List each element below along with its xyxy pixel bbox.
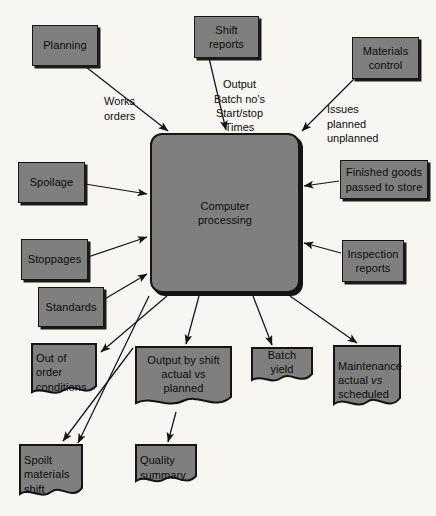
node-shift-reports-label-line2: reports [209,37,244,51]
edge-standards-to-process [103,274,147,300]
node-maintenance-label-line2: actual vs [332,373,402,387]
node-standards-label: Standards [45,300,96,314]
node-stoppages[interactable]: Stoppages [21,239,88,280]
diagram-canvas: Planning Shift reports Materials control… [0,0,436,516]
edge-label-works-orders: Works orders [104,80,135,123]
node-spoilage[interactable]: Spoilage [18,162,85,203]
node-spoilt-materials-label-line1: Spoilt [18,448,84,467]
edge-output-by-shift-to-quality-summary [168,412,176,442]
edge-inspection-reports-to-process [304,243,341,253]
edge-label-output-batch-times-text: Output Batch no's Start/stop Times [214,78,265,133]
edge-finished-goods-to-process [304,181,339,186]
node-spoilage-label: Spoilage [30,175,74,189]
edge-process-to-out-of-order [101,296,167,352]
node-spoilt-materials-label-line3: shift [18,482,84,496]
node-planning-label: Planning [43,38,87,52]
node-output-by-shift-label-line1: Output by shift [134,345,233,367]
node-spoilt-materials-shift[interactable]: Spoilt materials shift [18,443,84,501]
node-shift-reports-label-line1: Shift [215,23,238,37]
node-spoilt-materials-label-line2: materials [18,467,84,481]
edge-spoilage-to-process [85,184,147,194]
node-materials-control-label-line2: control [369,58,403,72]
edge-process-to-maintenance [290,296,357,343]
maintenance-actual-word: actual [338,374,368,386]
node-out-of-order-label-line3: conditions [30,380,98,394]
edge-process-to-output-by-shift [186,296,199,344]
node-materials-control[interactable]: Materials control [352,37,419,79]
node-shift-reports[interactable]: Shift reports [194,16,259,58]
node-inspection-reports-label-line2: reports [356,261,391,275]
node-inspection-reports[interactable]: Inspection reports [342,240,404,282]
node-batch-yield-label: Batch yield [250,348,314,384]
node-planning[interactable]: Planning [32,25,98,66]
node-out-of-order-conditions[interactable]: Out of order conditions [30,342,98,398]
node-maintenance-label-line3: scheduled [332,387,402,401]
node-standards[interactable]: Standards [38,287,104,327]
node-inspection-reports-label-line1: Inspection [347,247,398,261]
node-computer-processing-label-line2: processing [198,213,252,227]
edge-stoppages-to-process [88,237,147,257]
maintenance-vs-word: vs [371,374,382,386]
node-computer-processing[interactable]: Computer processing [150,133,300,293]
edge-label-issues-planned-unplanned: Issues planned unplanned [327,88,378,145]
node-quality-summary[interactable]: Quality summary [134,443,198,488]
node-maintenance-label-line1: Maintenance [332,355,402,373]
edge-label-works-orders-text: Works orders [104,95,135,121]
edge-label-output-batch-times: Output Batch no's Start/stop Times [214,63,265,134]
node-quality-summary-label-line1: Quality [134,449,198,467]
node-quality-summary-label-line2: summary [134,468,198,482]
node-out-of-order-label-line2: order [30,365,98,379]
node-stoppages-label: Stoppages [28,252,82,266]
node-materials-control-label-line1: Materials [363,44,409,58]
edge-label-issues-text: Issues planned unplanned [327,103,378,144]
node-finished-goods-label-line1: Finished goods [346,165,422,179]
node-batch-yield[interactable]: Batch yield [250,346,314,386]
node-output-by-shift[interactable]: Output by shift actual vs planned [134,345,233,411]
edge-process-to-batch-yield [253,296,272,345]
node-finished-goods[interactable]: Finished goods passed to store [340,160,428,199]
node-finished-goods-label-line2: passed to store [346,180,423,194]
node-computer-processing-label-line1: Computer [200,199,249,213]
node-output-by-shift-label-line2: actual vs planned [134,367,233,395]
node-maintenance[interactable]: Maintenance actual vs scheduled [332,344,402,412]
node-out-of-order-label-line1: Out of [30,346,98,365]
